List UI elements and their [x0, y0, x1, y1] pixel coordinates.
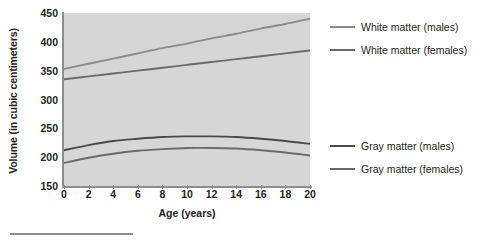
x-axis-title: Age (years): [64, 207, 310, 219]
legend-swatch-icon: [330, 145, 355, 147]
legend-swatch-icon: [330, 49, 355, 51]
y-tick-450: 450: [28, 8, 58, 19]
x-tick-2: 2: [77, 189, 101, 200]
chart-legend: White matter (males)White matter (female…: [330, 0, 485, 240]
y-tick-400: 400: [28, 37, 58, 48]
x-tick-20: 20: [298, 189, 322, 200]
y-tick-350: 350: [28, 66, 58, 77]
x-tickmark-20: [310, 185, 311, 189]
chart-figure: Volume (in cubic centimeters) 1502002503…: [0, 0, 485, 240]
y-tick-250: 250: [28, 123, 58, 134]
x-tick-8: 8: [150, 189, 174, 200]
x-tick-18: 18: [273, 189, 297, 200]
x-tickmark-4: [113, 185, 114, 189]
series-line-gray-matter-females: [64, 148, 310, 163]
x-tickmark-16: [261, 185, 262, 189]
x-tick-16: 16: [249, 189, 273, 200]
footer-rule: [10, 233, 133, 235]
series-line-white-matter-males: [64, 19, 310, 69]
legend-label: Gray matter (females): [361, 164, 463, 175]
legend-label: Gray matter (males): [361, 141, 454, 152]
legend-swatch-icon: [330, 168, 355, 170]
legend-item: Gray matter (males): [330, 141, 454, 152]
legend-label: White matter (females): [361, 45, 467, 56]
x-tickmark-18: [285, 185, 286, 189]
y-axis-tick-labels: 150200250300350400450: [24, 0, 58, 240]
x-tickmark-10: [187, 185, 188, 189]
y-axis-title-container: Volume (in cubic centimeters): [2, 12, 24, 190]
x-tickmark-2: [89, 185, 90, 189]
y-tick-300: 300: [28, 95, 58, 106]
series-line-white-matter-females: [64, 50, 310, 79]
y-axis-title: Volume (in cubic centimeters): [7, 28, 19, 174]
legend-item: White matter (females): [330, 45, 467, 56]
x-tickmark-14: [236, 185, 237, 189]
plot-area: [64, 13, 310, 186]
legend-item: White matter (males): [330, 22, 458, 33]
x-tick-6: 6: [126, 189, 150, 200]
legend-item: Gray matter (females): [330, 164, 463, 175]
x-tick-12: 12: [200, 189, 224, 200]
x-tickmark-6: [138, 185, 139, 189]
x-tick-10: 10: [175, 189, 199, 200]
legend-label: White matter (males): [361, 22, 458, 33]
x-tickmark-12: [212, 185, 213, 189]
x-tickmark-8: [162, 185, 163, 189]
y-tick-200: 200: [28, 152, 58, 163]
legend-swatch-icon: [330, 26, 355, 28]
chart-lines: [64, 13, 310, 186]
x-tick-4: 4: [101, 189, 125, 200]
x-tickmark-0: [64, 185, 65, 189]
x-tick-14: 14: [224, 189, 248, 200]
x-tick-0: 0: [52, 189, 76, 200]
